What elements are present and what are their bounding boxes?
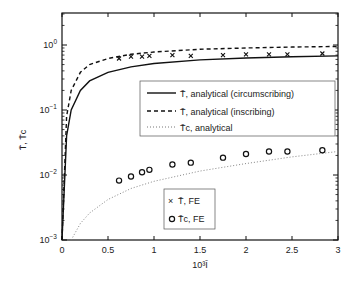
x-tick-label: 1.5: [194, 245, 207, 255]
legend-lower: × T̄, FE T̄c, FE: [164, 189, 215, 229]
y-tick-label: 10−1: [40, 103, 58, 115]
legend-inscribing: T̄, analytical (inscribing): [180, 107, 275, 117]
y-tick-label: 10−2: [40, 168, 58, 180]
x-tick-label: 0.5: [102, 245, 115, 255]
x-axis-label: 10³Ī: [192, 260, 208, 270]
y-axis-label: T̄, T̄c: [18, 129, 28, 150]
x-tick-label: 3: [335, 245, 340, 255]
y-tick-label: 100: [43, 38, 57, 50]
legend-tc-analytical: T̄c, analytical: [180, 123, 233, 133]
y-tick-label: 10−3: [40, 233, 58, 245]
x-tick-label: 0: [59, 245, 64, 255]
legend-t-fe: T̄, FE: [178, 196, 200, 206]
x-tick-label: 2: [243, 245, 248, 255]
chart: 00.511.522.5310−310−210−1100 T̄, analyti…: [0, 0, 355, 284]
legend-circumscribing: T̄, analytical (circumscribing): [180, 89, 294, 99]
x-tick-label: 2.5: [286, 245, 299, 255]
legend-upper: T̄, analytical (circumscribing) T̄, anal…: [140, 81, 335, 136]
svg-text:×: ×: [168, 196, 173, 206]
x-tick-label: 1: [151, 245, 156, 255]
legend-tc-fe: T̄c, FE: [178, 214, 205, 224]
